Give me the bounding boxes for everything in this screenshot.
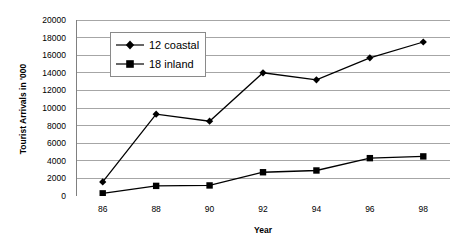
data-point-diamond [420,38,427,45]
data-point-square [206,182,212,188]
y-tick-label: 20000 [42,15,66,25]
x-tick-label: 98 [419,204,428,214]
square-marker-icon [115,57,145,71]
x-tick-label: 94 [312,204,321,214]
data-point-square [260,169,266,175]
y-axis-tick-labels: 0200040006000800010000120001400016000180… [0,20,70,196]
x-tick-label: 86 [98,204,107,214]
data-point-square [367,155,373,161]
y-tick-label: 6000 [47,138,66,148]
chart-legend: 12 coastal 18 inland [110,32,206,77]
legend-label-inland: 18 inland [149,58,194,70]
y-tick-label: 4000 [47,156,66,166]
diamond-marker-icon [115,38,145,52]
chart-container: Tourist Arrivals in '000 020004000600080… [0,0,469,247]
legend-item-inland: 18 inland [115,54,199,73]
legend-label-coastal: 12 coastal [149,39,199,51]
data-point-square [313,167,319,173]
x-axis-title: Year [76,225,450,235]
data-point-square [420,153,426,159]
y-tick-label: 8000 [47,121,66,131]
y-tick-label: 16000 [42,50,66,60]
y-tick-label: 10000 [42,103,66,113]
x-tick-label: 92 [258,204,267,214]
legend-item-coastal: 12 coastal [115,35,199,54]
y-tick-label: 0 [61,191,66,201]
y-tick-label: 12000 [42,85,66,95]
data-point-square [153,183,159,189]
y-tick-label: 2000 [47,173,66,183]
y-tick-label: 14000 [42,68,66,78]
x-tick-label: 90 [205,204,214,214]
data-point-diamond [313,76,320,83]
y-tick-label: 18000 [42,33,66,43]
x-tick-label: 88 [151,204,160,214]
data-point-square [100,190,106,196]
x-axis-tick-labels: 86889092949698 [76,200,450,216]
x-tick-label: 96 [365,204,374,214]
